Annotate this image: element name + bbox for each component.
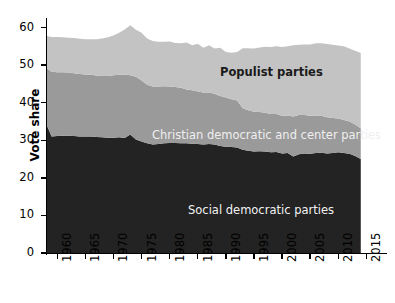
x-tick <box>225 254 226 259</box>
y-tick-label: 20 <box>0 172 34 183</box>
x-tick-label: 1970 <box>118 233 129 262</box>
x-tick-label: 2010 <box>343 233 354 262</box>
y-tick <box>41 215 46 216</box>
y-tick <box>41 177 46 178</box>
x-tick-label: 1985 <box>203 233 214 262</box>
x-tick-label: 1980 <box>175 233 186 262</box>
x-tick-label: 2005 <box>315 233 326 262</box>
x-tick <box>338 254 339 259</box>
y-tick-label: 50 <box>0 59 34 70</box>
y-tick <box>41 64 46 65</box>
y-tick-label: 40 <box>0 97 34 108</box>
y-tick <box>41 27 46 28</box>
x-tick-label: 1965 <box>90 233 101 262</box>
y-tick-label: 60 <box>0 22 34 33</box>
x-tick <box>169 254 170 259</box>
x-tick-label: 1975 <box>147 233 158 262</box>
x-tick <box>366 254 367 259</box>
x-tick-label: 1960 <box>62 233 73 262</box>
y-tick-label: 0 <box>0 247 34 258</box>
y-tick <box>41 102 46 103</box>
x-tick <box>141 254 142 259</box>
x-tick-label: 2000 <box>287 233 298 262</box>
stacked-area-svg <box>46 20 372 253</box>
plot-area: Populist parties Christian democratic an… <box>46 20 372 253</box>
x-tick-label: 2015 <box>371 233 382 262</box>
x-tick <box>197 254 198 259</box>
y-tick-label: 30 <box>0 134 34 145</box>
y-tick <box>41 140 46 141</box>
chart-figure: Populist parties Christian democratic an… <box>0 0 395 303</box>
x-tick <box>113 254 114 259</box>
x-tick-label: 1990 <box>231 233 242 262</box>
y-tick <box>41 252 46 253</box>
y-axis-line <box>46 18 47 255</box>
x-tick <box>309 254 310 259</box>
x-tick-label: 1995 <box>259 233 270 262</box>
x-tick <box>281 254 282 259</box>
x-tick <box>253 254 254 259</box>
y-tick-label: 10 <box>0 209 34 220</box>
x-tick <box>57 254 58 259</box>
x-tick <box>85 254 86 259</box>
